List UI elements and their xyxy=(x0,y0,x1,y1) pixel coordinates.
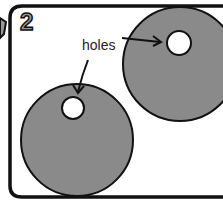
hole-right xyxy=(167,31,191,55)
disc-right xyxy=(123,7,223,121)
step-number: 2 xyxy=(20,8,33,35)
hole-left xyxy=(62,97,84,119)
holes-label: holes xyxy=(82,37,115,53)
illustration: 2 holes xyxy=(0,0,223,202)
previous-panel-fragment xyxy=(0,18,6,38)
